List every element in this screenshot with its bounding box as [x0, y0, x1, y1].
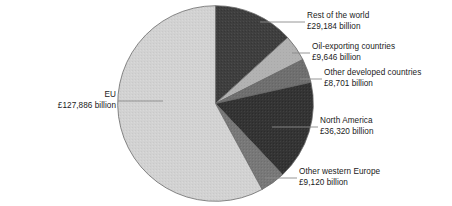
pie-label-oil-exporting-countries: Oil-exporting countries £9,646 billion: [312, 42, 395, 63]
pie-label-other-western-europe: Other western Europe £9,120 billion: [299, 167, 380, 188]
pie-chart-figure: Rest of the world £29,184 billion Oil-ex…: [0, 0, 452, 206]
pie-label-other-developed-countries: Other developed countries £8,701 billion: [324, 68, 421, 89]
pie-label-oil-exporting-countries-name: Oil-exporting countries: [312, 42, 395, 53]
pie-label-eu-value: £127,886 billion: [8, 101, 116, 112]
pie-label-rest-of-the-world: Rest of the world £29,184 billion: [307, 11, 369, 32]
pie-label-eu-name: EU: [8, 90, 116, 101]
pie-label-oil-exporting-countries-value: £9,646 billion: [312, 53, 395, 64]
pie-slices: [118, 6, 314, 202]
pie-label-north-america-name: North America: [320, 116, 374, 127]
pie-label-eu: EU £127,886 billion: [8, 90, 116, 111]
pie-label-rest-of-the-world-name: Rest of the world: [307, 11, 369, 22]
pie-label-other-developed-countries-value: £8,701 billion: [324, 79, 421, 90]
pie-label-north-america-value: £36,320 billion: [320, 127, 374, 138]
pie-label-other-western-europe-name: Other western Europe: [299, 167, 380, 178]
pie-label-other-western-europe-value: £9,120 billion: [299, 178, 380, 189]
pie-label-rest-of-the-world-value: £29,184 billion: [307, 22, 369, 33]
pie-label-other-developed-countries-name: Other developed countries: [324, 68, 421, 79]
pie-label-north-america: North America £36,320 billion: [320, 116, 374, 137]
